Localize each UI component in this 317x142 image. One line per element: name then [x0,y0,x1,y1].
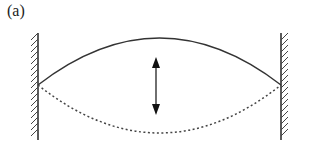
oscillation-arrow-icon [152,57,160,115]
lower-displacement-curve [38,85,281,133]
standing-wave-diagram [0,0,317,142]
right-wall [281,33,288,140]
upper-displacement-curve [38,38,281,85]
left-wall [31,33,38,140]
